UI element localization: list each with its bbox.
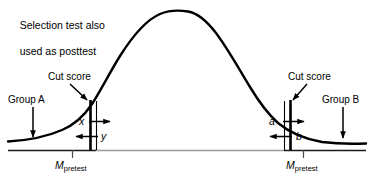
segment-x-label: x — [79, 116, 84, 127]
segment-b-label: b — [296, 131, 302, 142]
cut-score-left-pointer-arrow — [70, 84, 87, 100]
cut-score-right-lines — [285, 100, 291, 150]
group-b-label: Group B — [322, 94, 359, 105]
segment-y-label: y — [101, 131, 106, 142]
cut-score-label-left: Cut score — [48, 71, 91, 82]
mean-subscript-left: pretest — [64, 164, 87, 173]
cut-score-label-right: Cut score — [288, 71, 331, 82]
normal-distribution-figure: Selection test also used as posttest Cut… — [0, 0, 373, 185]
cut-score-left-lines — [91, 100, 97, 150]
mean-subscript-right: pretest — [295, 164, 318, 173]
segment-a-label: a — [269, 116, 275, 127]
group-a-label: Group A — [8, 94, 45, 105]
cut-score-right-pointer-arrow — [293, 84, 307, 100]
mean-pretest-label-right: Mpretest — [286, 160, 318, 172]
figure-title: Selection test also used as posttest — [8, 6, 105, 71]
figure-title-line1: Selection test also — [20, 19, 105, 31]
mean-symbol-left: M — [55, 159, 64, 171]
mean-symbol-right: M — [286, 159, 295, 171]
mean-pretest-label-left: Mpretest — [55, 160, 87, 172]
figure-title-line2: used as posttest — [20, 45, 96, 57]
